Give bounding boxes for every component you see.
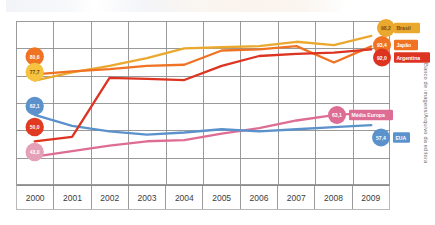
axis-year-2002: 2002 [92, 186, 129, 209]
chart-figure: 80,677,762,150,043,0 Brasil98,2Japão93,4… [0, 0, 435, 225]
series-name-label: Japão [396, 42, 411, 48]
image-credit: Banco de imagens/Arquivo da editora [423, 18, 435, 208]
plot-svg [16, 21, 390, 185]
axis-year-2006: 2006 [241, 186, 278, 209]
plot-area [16, 21, 390, 185]
axis-year-2004: 2004 [166, 186, 203, 209]
axis-year-2005: 2005 [203, 186, 240, 209]
series-name-tag [394, 23, 420, 33]
series-name-label: EUA [395, 135, 406, 141]
axis-year-2007: 2007 [278, 186, 315, 209]
axis-year-2003: 2003 [129, 186, 166, 209]
x-axis-year-row: 2000 2001 2002 2003 2004 2005 2006 2007 … [16, 185, 390, 210]
axis-year-2009: 2009 [353, 186, 389, 209]
series-name-label: Argentina [396, 55, 420, 61]
series-name-tag [394, 40, 418, 50]
series-name-tag [393, 132, 410, 142]
axis-year-2000: 2000 [17, 186, 54, 209]
cropped-title-remnant [6, 0, 346, 12]
axis-year-2008: 2008 [315, 186, 352, 209]
axis-year-2001: 2001 [54, 186, 91, 209]
series-name-label: Brasil [396, 25, 411, 31]
